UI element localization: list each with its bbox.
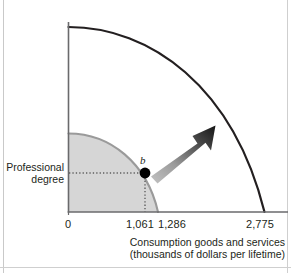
x-tick-label-0: 0 bbox=[65, 218, 71, 231]
y-tick-label-line2: degree bbox=[31, 173, 64, 185]
x-tick-label-2775: 2,775 bbox=[246, 218, 274, 231]
x-axis-title: Consumption goods and services(thousands… bbox=[108, 236, 285, 261]
point-b-label: b bbox=[140, 154, 146, 167]
x-axis-title-line1: Consumption goods and services bbox=[130, 236, 285, 248]
y-tick-label-line1: Professional bbox=[6, 161, 64, 173]
economic-growth-arrow bbox=[151, 126, 216, 184]
y-tick-label-professional-degree: Professionaldegree bbox=[0, 161, 64, 186]
x-axis-title-line2: (thousands of dollars per lifetime) bbox=[130, 248, 285, 260]
page-border bbox=[0, 0, 291, 273]
chart-canvas bbox=[0, 0, 291, 273]
x-tick-label-1061: 1,061 bbox=[126, 218, 154, 231]
point-b-marker bbox=[140, 168, 151, 179]
ppf-chart-figure: Education (level) Professionaldegree b 0… bbox=[0, 0, 291, 273]
x-tick-label-1286: 1,286 bbox=[158, 218, 186, 231]
